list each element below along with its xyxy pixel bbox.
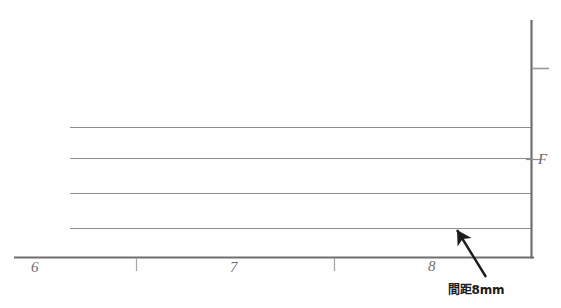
x-axis-label-8: 8 xyxy=(428,258,436,275)
callout-arrow xyxy=(457,230,486,277)
callout-annotation-label: 間距8mm xyxy=(448,280,504,297)
figure-canvas: 6 7 8 F 間距8mm xyxy=(0,0,561,308)
y-axis-label-f: F xyxy=(538,151,547,168)
x-axis-label-6: 6 xyxy=(31,259,39,276)
plot-vector-layer xyxy=(0,0,561,308)
x-axis-label-7: 7 xyxy=(230,259,238,276)
